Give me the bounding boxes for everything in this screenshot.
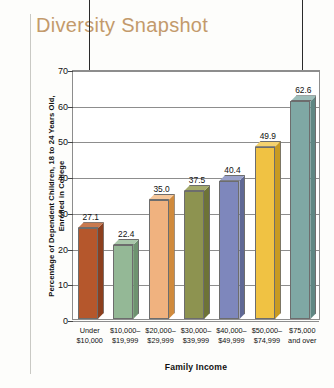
bar-side-face — [204, 185, 210, 319]
bar — [219, 175, 239, 319]
bar-front-face — [290, 101, 310, 319]
bar-side-face — [239, 175, 245, 319]
y-axis-tick-label: 10 — [58, 280, 68, 290]
x-axis-title: Family Income — [72, 362, 320, 372]
y-axis-tick-label: 20 — [58, 245, 68, 255]
bar-front-face — [219, 181, 239, 319]
bar-side-face — [169, 194, 175, 319]
bar-front-face — [255, 147, 275, 319]
y-axis-tick-label: 50 — [58, 137, 68, 147]
x-axis-tick-label-line: and over — [281, 336, 323, 346]
bar — [78, 222, 98, 319]
bar-front-face — [149, 200, 169, 319]
bar-value-label: 49.9 — [245, 131, 291, 141]
bar — [184, 185, 204, 319]
bar-front-face — [184, 191, 204, 319]
page-margin-rule — [30, 14, 31, 374]
bar-value-label: 27.1 — [68, 212, 114, 222]
y-axis-tick-label: 30 — [58, 209, 68, 219]
bar-value-label: 22.4 — [103, 229, 149, 239]
gridline — [73, 321, 319, 322]
plot-area: Percentage of Dependent Children, 18 to … — [72, 70, 320, 320]
bar — [113, 239, 133, 319]
bar-front-face — [113, 245, 133, 319]
x-axis-tick-labels: Under$10,000$10,000–$19,999$20,000–$29,9… — [72, 326, 320, 350]
arrow-shaft — [302, 0, 303, 72]
bar-value-label: 40.4 — [209, 165, 255, 175]
y-axis-tick-label: 40 — [58, 173, 68, 183]
bar-side-face — [310, 95, 316, 319]
bar-side-face — [133, 239, 139, 319]
bar — [149, 194, 169, 319]
y-axis-tick-label: 60 — [58, 102, 68, 112]
bar-side-face — [275, 141, 281, 319]
y-axis-title-line-1: Percentage of Dependent Children, 18 to … — [47, 71, 57, 321]
y-axis-tick-mark — [68, 321, 73, 322]
x-axis-tick-label-line: $75,000 — [281, 326, 323, 336]
bar-front-face — [78, 228, 98, 319]
chart-page: Diversity Snapshot Percentage of Depende… — [0, 0, 334, 388]
bar-value-label: 35.0 — [139, 184, 185, 194]
y-axis-tick-label: 0 — [63, 316, 68, 326]
x-axis-tick-label: $75,000and over — [281, 326, 323, 345]
y-axis-tick-label: 70 — [58, 66, 68, 76]
bar-series: 27.122.435.037.540.449.962.6 — [73, 71, 319, 319]
bar-value-label: 62.6 — [280, 85, 326, 95]
y-axis-title: Percentage of Dependent Children, 18 to … — [47, 0, 297, 71]
bar-value-label: 37.5 — [174, 175, 220, 185]
bar — [255, 141, 275, 319]
bar — [290, 95, 310, 319]
